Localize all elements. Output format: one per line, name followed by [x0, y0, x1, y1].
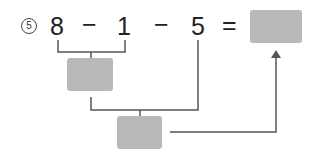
- connector-lines: [0, 0, 318, 160]
- arrow-head-icon: [271, 50, 281, 58]
